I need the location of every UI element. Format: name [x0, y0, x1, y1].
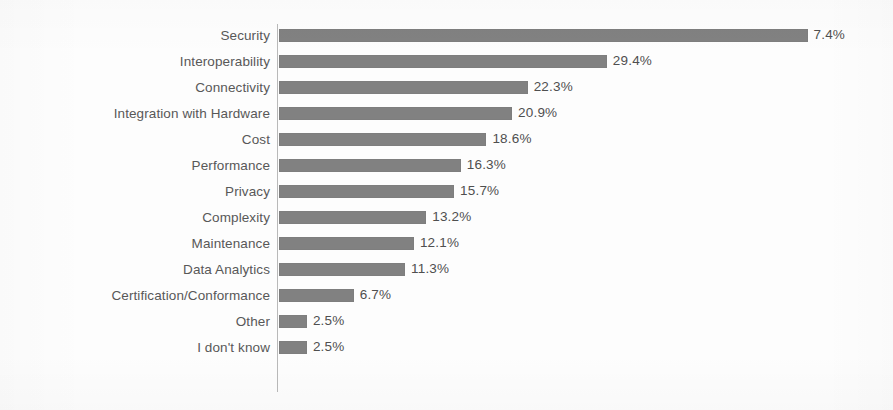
bar-fill — [279, 211, 426, 224]
bar-value-label: 12.1% — [420, 234, 459, 252]
bar-fill — [279, 263, 405, 276]
category-label: I don't know — [0, 339, 270, 357]
chart-canvas: Security7.4%Interoperability29.4%Connect… — [0, 0, 893, 410]
bar — [279, 55, 607, 68]
category-label: Connectivity — [0, 79, 270, 97]
bar-value-label: 18.6% — [492, 130, 531, 148]
bar-row: Complexity13.2% — [0, 209, 893, 235]
bar-fill — [279, 29, 808, 42]
bar — [279, 133, 486, 146]
category-label: Integration with Hardware — [0, 105, 270, 123]
bar-row: Interoperability29.4% — [0, 53, 893, 79]
category-label: Security — [0, 27, 270, 45]
bar-value-label: 7.4% — [814, 26, 846, 44]
bar-row: Performance16.3% — [0, 157, 893, 183]
bar-value-label: 15.7% — [460, 182, 499, 200]
bar-row: I don't know2.5% — [0, 339, 893, 365]
bar-row: Data Analytics11.3% — [0, 261, 893, 287]
category-label: Privacy — [0, 183, 270, 201]
bar-chart-plot-area: Security7.4%Interoperability29.4%Connect… — [0, 0, 893, 410]
bar-row: Privacy15.7% — [0, 183, 893, 209]
bar — [279, 211, 426, 224]
bar-row: Connectivity22.3% — [0, 79, 893, 105]
bar-fill — [279, 107, 512, 120]
bar-fill — [279, 289, 354, 302]
bar-value-label: 20.9% — [518, 104, 557, 122]
bar — [279, 159, 461, 172]
bar-row: Certification/Conformance6.7% — [0, 287, 893, 313]
bar-value-label: 11.3% — [411, 260, 449, 278]
bar-fill — [279, 341, 307, 354]
bar-row: Other2.5% — [0, 313, 893, 339]
bar — [279, 289, 354, 302]
category-label: Cost — [0, 131, 270, 149]
category-label: Interoperability — [0, 53, 270, 71]
bar-row: Integration with Hardware20.9% — [0, 105, 893, 131]
bar-value-label: 13.2% — [432, 208, 471, 226]
category-label: Performance — [0, 157, 270, 175]
bar-row: Security7.4% — [0, 27, 893, 53]
category-label: Other — [0, 313, 270, 331]
bar-value-label: 16.3% — [467, 156, 506, 174]
bar-fill — [279, 55, 607, 68]
bar-value-label: 2.5% — [313, 338, 345, 356]
bar-fill — [279, 159, 461, 172]
bar-row: Maintenance12.1% — [0, 235, 893, 261]
bar — [279, 315, 307, 328]
bar-fill — [279, 81, 528, 94]
bar — [279, 107, 512, 120]
bar — [279, 341, 307, 354]
bar — [279, 185, 454, 198]
bar — [279, 81, 528, 94]
bar-fill — [279, 133, 486, 146]
bar-value-label: 6.7% — [360, 286, 392, 304]
bar-fill — [279, 237, 414, 250]
category-label: Complexity — [0, 209, 270, 227]
bar — [279, 263, 405, 276]
bar-fill — [279, 185, 454, 198]
bar-row: Cost18.6% — [0, 131, 893, 157]
category-label: Certification/Conformance — [0, 287, 270, 305]
bar — [279, 29, 808, 42]
bar-value-label: 2.5% — [313, 312, 345, 330]
category-label: Data Analytics — [0, 261, 270, 279]
bar-fill — [279, 315, 307, 328]
category-label: Maintenance — [0, 235, 270, 253]
bar — [279, 237, 414, 250]
bar-value-label: 22.3% — [534, 78, 573, 96]
bar-value-label: 29.4% — [613, 52, 652, 70]
